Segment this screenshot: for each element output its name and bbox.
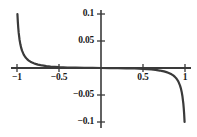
y-tick-label: −0.05 [0,90,94,100]
chart-figure: −1−0.50.51 0.10.05−0.05−0.1 [0,0,197,137]
y-tick-label: −0.1 [0,117,94,127]
x-tick-label: −1 [12,73,22,83]
x-tick-label: 1 [183,73,188,83]
y-tick-label: 0.1 [0,9,94,19]
y-tick-label: 0.05 [0,36,94,46]
x-tick-label: −0.5 [51,73,68,83]
x-tick-label: 0.5 [137,73,148,83]
